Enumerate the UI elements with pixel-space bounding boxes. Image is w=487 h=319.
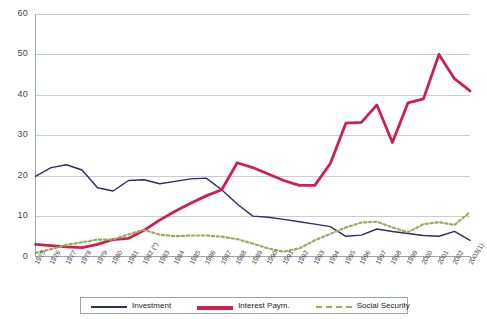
legend-item-social-security: Social Security <box>316 298 410 313</box>
line-chart: 0102030405060 19751976197719781979198019… <box>0 0 487 319</box>
gridlines <box>36 15 471 217</box>
y-axis-tick-label: 40 <box>4 89 28 99</box>
chart-legend: Investment Interest Paym. Social Securit… <box>80 297 408 314</box>
series-lines <box>36 54 471 252</box>
y-axis-tick-label: 10 <box>4 210 28 220</box>
legend-swatch-investment <box>91 301 127 311</box>
legend-label-interest-paym: Interest Paym. <box>238 301 290 310</box>
legend-label-social-security: Social Security <box>357 301 410 310</box>
legend-item-investment: Investment <box>91 298 171 313</box>
series-line <box>36 54 471 247</box>
legend-label-investment: Investment <box>132 301 171 310</box>
legend-item-interest-paym: Interest Paym. <box>197 298 290 313</box>
legend-swatch-social-security <box>316 301 352 311</box>
y-axis-tick-label: 50 <box>4 48 28 58</box>
y-axis-tick-label: 30 <box>4 129 28 139</box>
legend-swatch-interest-paym <box>197 301 233 311</box>
plot-area <box>0 0 487 319</box>
legend-line-interest-paym <box>197 306 233 310</box>
y-axis-tick-label: 0 <box>4 251 28 261</box>
legend-line-social-security <box>316 306 352 308</box>
y-axis-tick-label: 60 <box>4 8 28 18</box>
legend-line-investment <box>91 306 127 308</box>
y-axis-tick-label: 20 <box>4 170 28 180</box>
